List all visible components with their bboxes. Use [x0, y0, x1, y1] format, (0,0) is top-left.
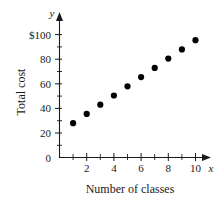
- data-point: [179, 46, 185, 52]
- y-axis-major-ticks: [55, 35, 62, 133]
- y-tick-label-100: $100: [29, 29, 52, 41]
- y-tick-label-60: 60: [40, 78, 52, 90]
- scatter-plot-figure: $100 80 60 40 20 0 2 4 6 8 10 y x Total …: [0, 0, 221, 207]
- y-tick-label-80: 80: [40, 53, 52, 65]
- y-axis-title: Total cost: [14, 68, 28, 115]
- x-axis-arrowhead: [202, 154, 211, 161]
- x-axis-title: Number of classes: [86, 182, 175, 196]
- x-tick-label-10: 10: [190, 162, 202, 174]
- x-axis-variable-label: x: [208, 162, 214, 174]
- x-axis: [60, 154, 212, 161]
- y-axis-variable-label: y: [49, 7, 55, 19]
- data-point: [97, 102, 103, 108]
- data-point-series: [70, 37, 199, 126]
- data-point: [152, 65, 158, 71]
- y-axis: [56, 12, 63, 157]
- x-tick-label-8: 8: [166, 162, 172, 174]
- y-axis-arrowhead: [56, 12, 63, 21]
- data-point: [111, 92, 117, 98]
- x-tick-label-2: 2: [84, 162, 90, 174]
- y-tick-label-0: 0: [46, 152, 52, 164]
- data-point: [70, 120, 76, 126]
- plot-canvas: $100 80 60 40 20 0 2 4 6 8 10 y x Total …: [0, 0, 221, 207]
- y-tick-label-40: 40: [40, 102, 52, 114]
- data-point: [124, 83, 130, 89]
- y-tick-label-20: 20: [40, 127, 52, 139]
- data-point: [165, 56, 171, 62]
- x-tick-label-4: 4: [111, 162, 117, 174]
- data-point: [84, 111, 90, 117]
- data-point: [138, 74, 144, 80]
- x-tick-label-6: 6: [138, 162, 144, 174]
- data-point: [192, 37, 198, 43]
